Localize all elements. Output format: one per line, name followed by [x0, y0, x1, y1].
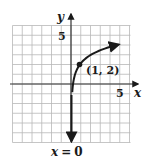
point-label: (1, 2) — [86, 64, 119, 77]
x-tick-label: 5 — [116, 87, 124, 100]
point-marker — [77, 62, 83, 68]
y-axis-label: y — [56, 10, 65, 24]
graph: (1, 2) y x 5 5 x=0 — [0, 0, 143, 162]
x-axis-label: x — [133, 86, 142, 100]
asymptote-label: x=0 — [50, 145, 83, 159]
y-tick-label: 5 — [58, 30, 66, 43]
